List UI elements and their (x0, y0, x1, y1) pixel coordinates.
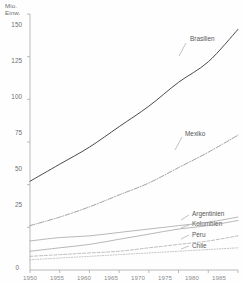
y-axis-ticks (27, 14, 30, 227)
population-line-chart: Mio. Einw. 150 125 100 75 50 25 0 1950 1… (0, 0, 244, 282)
leader-line-mexiko (175, 137, 182, 150)
axes-group (27, 14, 238, 273)
series-line-chile (30, 248, 238, 260)
series-line-mexiko (30, 135, 238, 225)
series-line-argentinien (30, 217, 238, 241)
x-axis-ticks (30, 270, 238, 273)
series-line-kolumbien (30, 221, 238, 252)
leader-line-brasilien (179, 43, 186, 56)
series-line-peru (30, 236, 238, 256)
plot-area (0, 0, 244, 282)
leader-line-chile (181, 246, 189, 249)
leader-line-peru (181, 235, 189, 239)
series-line-brasilien (30, 29, 238, 181)
leader-line-argentinien (181, 215, 189, 220)
series-lines-group (30, 29, 238, 259)
label-leader-lines (175, 43, 189, 249)
